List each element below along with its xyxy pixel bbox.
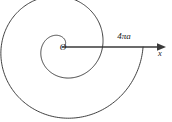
x-axis-label: x [157,48,162,58]
spiral-figure-canvas: O x 4πa [0,0,172,122]
origin-label: O [60,42,67,52]
segment-length-label: 4πa [117,31,131,41]
spiral-figure: O x 4πa [0,0,172,122]
archimedean-spiral-curve [1,0,143,118]
